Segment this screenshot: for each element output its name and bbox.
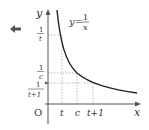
y-tick-1-over-t: 1 t xyxy=(37,26,44,43)
x-tick-t: t xyxy=(60,108,64,118)
x-axis-label: x xyxy=(134,106,141,119)
svg-text:y=: y= xyxy=(68,16,83,27)
y-tick-1-over-t-plus-1: 1 t+1 xyxy=(28,81,44,99)
svg-text:1: 1 xyxy=(36,81,40,89)
y-axis-label: y xyxy=(35,7,43,20)
svg-text:t: t xyxy=(39,35,42,43)
svg-text:1: 1 xyxy=(39,26,43,34)
svg-text:t+1: t+1 xyxy=(28,91,41,99)
x-tick-t-plus-1: t+1 xyxy=(87,108,104,118)
y-axis xyxy=(46,9,51,124)
dashed-guides xyxy=(48,35,93,104)
left-arrow-icon[interactable] xyxy=(10,25,21,33)
y-tick-1-over-c: 1 c xyxy=(37,64,44,81)
function-label: y= 1 x xyxy=(68,13,89,32)
x-tick-c: c xyxy=(75,108,80,118)
svg-text:1: 1 xyxy=(83,13,88,22)
svg-text:1: 1 xyxy=(39,64,43,72)
svg-text:c: c xyxy=(39,73,43,81)
function-graph: y x O y= 1 x 1 t 1 c 1 t+1 t c t+1 xyxy=(0,0,149,130)
svg-text:x: x xyxy=(83,23,88,32)
origin-label: O xyxy=(34,107,42,118)
